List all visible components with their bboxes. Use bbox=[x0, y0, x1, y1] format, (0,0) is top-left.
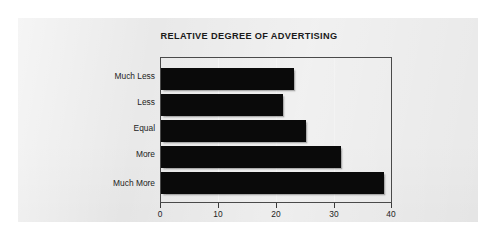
y-axis-label-text: More bbox=[136, 149, 155, 159]
y-axis-label-text: Much More bbox=[113, 178, 155, 188]
xtick-mark-10 bbox=[218, 203, 219, 208]
bar-much-more[interactable] bbox=[161, 172, 384, 194]
y-axis-label-much-more: Much More bbox=[60, 178, 155, 188]
y-axis-label-much-less: Much Less bbox=[60, 71, 155, 81]
bar-less[interactable] bbox=[161, 94, 283, 116]
xtick-mark-0 bbox=[160, 203, 161, 208]
plot-area bbox=[160, 57, 392, 203]
xtick-mark-30 bbox=[334, 203, 335, 208]
xtick-mark-40 bbox=[391, 203, 392, 208]
bar-much-less[interactable] bbox=[161, 68, 294, 90]
bar-series bbox=[161, 58, 391, 202]
y-axis-label-equal: Equal bbox=[60, 123, 155, 133]
y-axis-label-more: More bbox=[60, 149, 155, 159]
xtick-label-20: 20 bbox=[261, 209, 291, 219]
xtick-mark-20 bbox=[276, 203, 277, 208]
y-axis-label-text: Equal bbox=[134, 123, 155, 133]
chart-figure: RELATIVE DEGREE OF ADVERTISING Much Less… bbox=[0, 0, 498, 237]
xtick-label-10: 10 bbox=[203, 209, 233, 219]
y-axis-label-text: Less bbox=[137, 97, 155, 107]
y-axis-label-less: Less bbox=[60, 97, 155, 107]
xtick-label-30: 30 bbox=[319, 209, 349, 219]
xtick-label-40: 40 bbox=[376, 209, 406, 219]
xtick-label-0: 0 bbox=[145, 209, 175, 219]
chart-title: RELATIVE DEGREE OF ADVERTISING bbox=[0, 31, 498, 41]
bar-more[interactable] bbox=[161, 146, 341, 168]
y-axis-label-text: Much Less bbox=[115, 71, 156, 81]
bar-equal[interactable] bbox=[161, 120, 306, 142]
